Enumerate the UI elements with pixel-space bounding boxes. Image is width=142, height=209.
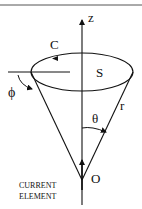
current-element-label-line2: ELEMENT <box>19 192 56 201</box>
contour-c-label: C <box>50 37 59 52</box>
current-element-label-line1: CURRENT <box>19 181 56 190</box>
origin-o-label: O <box>91 171 100 186</box>
radius-r-label: r <box>120 98 125 113</box>
cone-diagram: z C S ϕ θ r O CURRENT ELEMENT <box>0 0 142 209</box>
phi-arc <box>18 75 32 89</box>
phi-label: ϕ <box>8 85 15 100</box>
z-axis-label: z <box>88 10 94 25</box>
theta-label: θ <box>92 111 98 126</box>
surface-s-label: S <box>96 65 103 80</box>
theta-arc <box>82 128 106 133</box>
